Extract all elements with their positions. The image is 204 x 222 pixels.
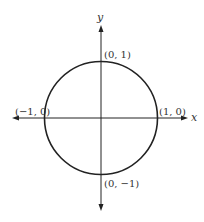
point-label-top: (0, 1) xyxy=(104,50,131,60)
y-axis-down-arrow-icon xyxy=(99,204,104,211)
unit-circle-diagram: y x (0, 1) (−1, 0) (1, 0) (0, −1) xyxy=(0,0,204,222)
point-label-bottom: (0, −1) xyxy=(104,179,139,189)
y-axis-up-arrow-icon xyxy=(99,25,104,32)
point-label-right: (1, 0) xyxy=(159,107,186,117)
x-axis-label: x xyxy=(191,112,197,123)
point-label-left: (−1, 0) xyxy=(15,107,50,117)
y-axis-label: y xyxy=(97,12,103,23)
